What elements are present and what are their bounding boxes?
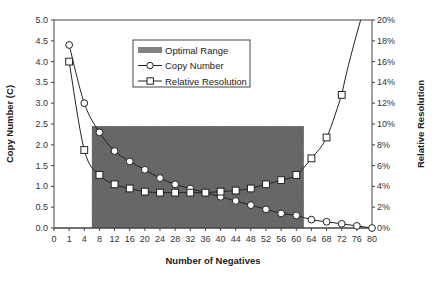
square-marker [141, 188, 148, 195]
x-tick-label: 60 [291, 234, 301, 244]
circle-marker [81, 100, 88, 107]
x-tick-label: 48 [246, 234, 256, 244]
y-axis-title: Copy Number (C) [4, 85, 15, 163]
y-tick-label: 4.5 [35, 36, 48, 46]
y2-tick-label: 2% [377, 202, 390, 212]
x-tick-label: 52 [261, 234, 271, 244]
circle-marker [66, 42, 73, 49]
circle-marker [96, 129, 103, 136]
optimal-range-shade [92, 126, 304, 228]
y2-tick-label: 18% [377, 36, 395, 46]
legend-label: Optimal Range [165, 45, 228, 56]
circle-marker [308, 216, 315, 223]
square-marker [111, 181, 118, 188]
y-tick-label: 2.5 [35, 119, 48, 129]
x-tick-label: 8 [97, 234, 102, 244]
y-tick-label: 3.5 [35, 77, 48, 87]
x-tick-label: 24 [155, 234, 165, 244]
shade-swatch-icon [138, 47, 162, 53]
square-marker [81, 147, 88, 154]
square-marker [66, 58, 73, 65]
circle-marker [353, 223, 360, 230]
y-tick-label: 4.0 [35, 57, 48, 67]
y-tick-label: 0.5 [35, 202, 48, 212]
y-tick-label: 1.5 [35, 161, 48, 171]
y-tick-label: 0.0 [35, 223, 48, 233]
y2-tick-label: 16% [377, 57, 395, 67]
circle-marker [293, 212, 300, 219]
x-tick-label: 36 [200, 234, 210, 244]
square-marker [172, 189, 179, 196]
square-marker [308, 155, 315, 162]
y2-tick-label: 20% [377, 15, 395, 25]
x-tick-label: 56 [276, 234, 286, 244]
x-tick-label: 12 [110, 234, 120, 244]
y2-axis-title: Relative Resolution [415, 80, 426, 168]
x-tick-label: 44 [231, 234, 241, 244]
x-tick-label: 1 [67, 234, 72, 244]
circle-marker [369, 225, 376, 232]
y2-tick-label: 12% [377, 98, 395, 108]
x-tick-label: 76 [352, 234, 362, 244]
y2-tick-label: 8% [377, 140, 390, 150]
square-marker [157, 189, 164, 196]
circle-marker [247, 202, 254, 209]
circle-marker [323, 218, 330, 225]
square-marker [293, 172, 300, 179]
y-tick-label: 5.0 [35, 15, 48, 25]
x-axis-title: Number of Negatives [165, 255, 260, 266]
circle-marker [263, 206, 270, 213]
x-tick-label: 4 [82, 234, 87, 244]
legend-label: Relative Resolution [165, 76, 247, 87]
square-marker [217, 188, 224, 195]
optimal-range-region [92, 126, 304, 228]
y-tick-label: 3.0 [35, 98, 48, 108]
circle-marker [126, 158, 133, 165]
square-marker [232, 187, 239, 194]
y2-tick-label: 4% [377, 181, 390, 191]
x-tick-label: 28 [170, 234, 180, 244]
x-tick-label: 0 [51, 234, 56, 244]
x-tick-label: 80 [367, 234, 377, 244]
square-marker [323, 134, 330, 141]
x-tick-label: 68 [322, 234, 332, 244]
square-marker-icon [147, 78, 153, 84]
circle-marker [157, 175, 164, 182]
x-tick-label: 20 [140, 234, 150, 244]
circle-marker [141, 166, 148, 173]
circle-marker [111, 148, 118, 155]
x-tick-label: 16 [125, 234, 135, 244]
circle-marker [278, 210, 285, 217]
square-marker [338, 91, 345, 98]
circle-marker [338, 220, 345, 227]
square-marker [202, 189, 209, 196]
circle-marker-icon [147, 62, 153, 68]
square-marker [187, 189, 194, 196]
x-tick-label: 64 [306, 234, 316, 244]
circle-marker [232, 198, 239, 205]
circle-marker [172, 181, 179, 188]
y2-tick-label: 0% [377, 223, 390, 233]
y2-tick-label: 10% [377, 119, 395, 129]
legend-label: Copy Number [165, 60, 224, 71]
legend: Optimal RangeCopy NumberRelative Resolut… [133, 40, 250, 87]
square-marker [126, 185, 133, 192]
square-marker [278, 177, 285, 184]
square-marker [263, 181, 270, 188]
square-marker [247, 185, 254, 192]
x-tick-label: 40 [216, 234, 226, 244]
chart: 0.00.51.01.52.02.53.03.54.04.55.00%2%4%6… [0, 0, 432, 281]
y2-tick-label: 6% [377, 161, 390, 171]
y-tick-label: 2.0 [35, 140, 48, 150]
x-tick-label: 32 [185, 234, 195, 244]
square-marker [96, 172, 103, 179]
y2-tick-label: 14% [377, 77, 395, 87]
y-tick-label: 1.0 [35, 181, 48, 191]
x-tick-label: 72 [337, 234, 347, 244]
